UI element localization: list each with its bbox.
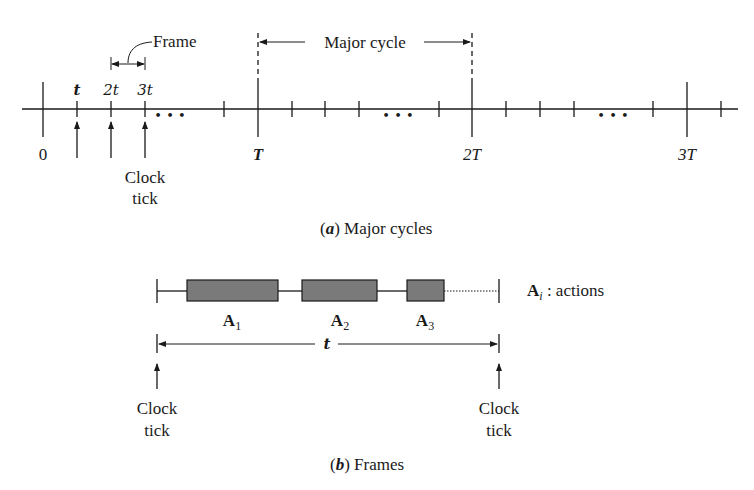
clock-tick-label-a-line2: tick	[132, 189, 158, 208]
clock-tick-label-b1-line2: tick	[144, 421, 170, 440]
action-box-a1	[187, 280, 278, 301]
actions-legend: Ai : actions	[527, 281, 604, 303]
caption-b: (b) Frames	[330, 455, 404, 474]
tick-label-T: T	[253, 145, 264, 164]
figure-b-frames: A1 A2 A3 Ai : actions t Clock tick Clock…	[137, 279, 604, 474]
frame-leader-curve	[128, 42, 152, 63]
caption-b-text: Frames	[350, 455, 404, 474]
ellipsis-1: • • •	[154, 108, 185, 123]
ellipsis-3: • • •	[597, 108, 628, 123]
caption-a-label: a	[326, 219, 335, 238]
action-box-a2	[302, 280, 377, 301]
caption-a-text: Major cycles	[340, 219, 433, 238]
caption-a: (a) Major cycles	[320, 219, 432, 238]
duration-label: t	[324, 335, 331, 353]
frame-label: Frame	[153, 32, 196, 51]
caption-b-label: b	[336, 455, 345, 474]
action-box-a3	[407, 280, 444, 301]
tick-label-0: 0	[39, 145, 48, 164]
tick-label-t: t	[74, 81, 81, 99]
real-time-scheduling-diagram: • • • • • • • • • t 2t 3t 0 T 2T 3T Cloc…	[0, 0, 754, 490]
clock-tick-label-b1-line1: Clock	[137, 399, 178, 418]
tick-label-3T: 3T	[677, 145, 698, 164]
clock-tick-arrows	[77, 122, 145, 158]
clock-tick-label-b2-line2: tick	[486, 421, 512, 440]
action-label-a2: A2	[331, 311, 349, 333]
tick-label-2t: 2t	[102, 81, 120, 99]
tick-label-3t: 3t	[137, 81, 154, 99]
action-label-a3: A3	[416, 311, 434, 333]
figure-a-major-cycles: • • • • • • • • • t 2t 3t 0 T 2T 3T Cloc…	[22, 32, 738, 238]
ellipsis-2: • • •	[382, 108, 413, 123]
action-label-a1: A1	[223, 311, 241, 333]
tick-label-2T: 2T	[463, 145, 483, 164]
major-cycle-label: Major cycle	[324, 33, 406, 52]
clock-tick-label-a-line1: Clock	[125, 168, 166, 187]
frame-indicator	[111, 42, 152, 70]
clock-tick-label-b2-line1: Clock	[479, 399, 520, 418]
